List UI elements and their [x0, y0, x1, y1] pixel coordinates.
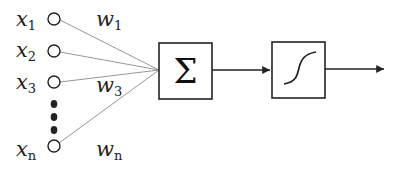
ellipsis-dots: [51, 100, 58, 134]
edge-x2: [60, 52, 159, 70]
weight-label-w3: w3: [96, 73, 122, 99]
input-label-xn: xn: [16, 137, 37, 163]
perceptron-diagram: x1 x2 x3 xn w1 w3 wn Σ: [0, 0, 398, 170]
weight-label-w1: w1: [96, 7, 122, 33]
input-label-x2: x2: [16, 38, 36, 64]
input-label-x1: x1: [16, 7, 36, 33]
weight-label-wn: wn: [96, 137, 123, 163]
input-node-x3: [48, 76, 60, 88]
input-node-x2: [48, 45, 60, 57]
input-node-xn: [48, 140, 60, 152]
sigma-symbol: Σ: [173, 51, 197, 91]
input-node-x1: [48, 13, 60, 25]
input-label-x3: x3: [16, 70, 36, 96]
